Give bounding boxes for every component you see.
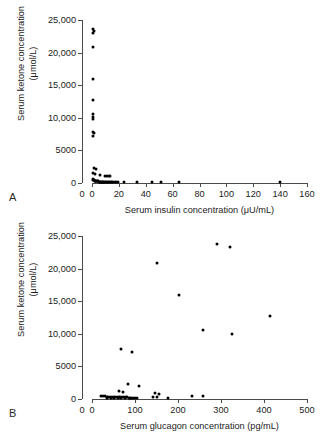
panel-b: B Serum ketone concentration (μmol/L) 0 … (0, 216, 334, 434)
data-point (153, 392, 156, 395)
panel-a-origin-label: 0 (79, 189, 84, 199)
data-point (92, 118, 95, 121)
panel-b-y-axis-line (82, 236, 83, 399)
panel-b-y-axis-title: Serum ketone concentration (μmol/L) (16, 204, 39, 356)
panel_a-x-tick (92, 183, 93, 187)
panel_a-y-tick (78, 183, 82, 184)
panel_a-x-tick (200, 183, 201, 187)
data-point (127, 383, 130, 386)
data-point (160, 181, 163, 184)
data-point (177, 293, 180, 296)
panel_a-x-tick (307, 183, 308, 187)
panel_b-x-tick (92, 399, 93, 403)
panel_a-x-tick-label: 140 (272, 189, 287, 199)
panel_a-y-tick-label: 5000 (56, 145, 76, 155)
data-point (138, 384, 141, 387)
panel-b-y-axis-title-line2: (μmol/L) (27, 204, 39, 356)
data-point (269, 315, 272, 318)
data-point (92, 135, 95, 138)
panel_b-x-tick-label: 400 (256, 405, 271, 415)
panel_a-x-tick-label: 20 (114, 189, 124, 199)
panel_b-y-tick (78, 301, 82, 302)
panel-b-plot-area: 0 Serum glucagon concentration (pg/mL) 2… (82, 236, 307, 380)
data-point (190, 394, 193, 397)
figure-container: A Serum ketone concentration (μmol/L) 0 … (0, 0, 334, 435)
data-point (229, 246, 232, 249)
panel_b-x-tick (221, 399, 222, 403)
data-point (135, 397, 138, 400)
panel_b-x-tick-label: 0 (89, 405, 94, 415)
data-point (131, 351, 134, 354)
panel_a-x-tick (226, 183, 227, 187)
data-point (230, 333, 233, 336)
data-point (136, 181, 139, 184)
panel_b-x-tick (135, 399, 136, 403)
panel_b-x-tick-label: 100 (127, 405, 142, 415)
panel-a: A Serum ketone concentration (μmol/L) 0 … (0, 0, 334, 218)
panel-a-plot-area: 0 Serum insulin concentration (μU/mL) 25… (82, 20, 307, 164)
panel_a-x-tick-label: 0 (89, 189, 94, 199)
panel-a-letter: A (9, 191, 17, 203)
panel_a-y-tick-label: 10,000 (48, 113, 76, 123)
panel_a-y-tick-label: 15,000 (48, 80, 76, 90)
panel_b-x-tick-label: 500 (299, 405, 314, 415)
panel_b-y-tick (78, 399, 82, 400)
panel_b-x-tick (307, 399, 308, 403)
panel-b-x-axis-title: Serum glucagon concentration (pg/mL) (92, 421, 307, 431)
data-point (201, 395, 204, 398)
data-point (152, 396, 155, 399)
panel_a-y-tick (78, 20, 82, 21)
data-point (279, 181, 282, 184)
data-point (201, 328, 204, 331)
panel-a-y-axis-title-line1: Serum ketone concentration (16, 6, 26, 121)
data-point (92, 45, 95, 48)
data-point (123, 397, 126, 400)
panel_b-y-tick-label: 5000 (56, 361, 76, 371)
data-point (99, 173, 102, 176)
data-point (156, 261, 159, 264)
panel_b-y-tick-label: 25,000 (48, 231, 76, 241)
panel_a-x-tick (173, 183, 174, 187)
data-point (109, 175, 112, 178)
data-point (121, 390, 124, 393)
panel_a-x-tick (119, 183, 120, 187)
data-point (120, 347, 123, 350)
panel_b-y-tick (78, 366, 82, 367)
panel_a-x-tick-label: 60 (168, 189, 178, 199)
panel_a-y-tick (78, 118, 82, 119)
data-point (150, 181, 153, 184)
panel_b-x-tick-label: 300 (213, 405, 228, 415)
panel_b-y-tick-label: 0 (71, 394, 76, 404)
panel-a-y-axis-title: Serum ketone concentration (μmol/L) (16, 0, 39, 140)
panel-a-x-axis-title: Serum insulin concentration (μU/mL) (92, 205, 307, 215)
panel_a-x-tick-label: 160 (299, 189, 314, 199)
data-point (158, 392, 161, 395)
panel_a-x-tick-label: 120 (246, 189, 261, 199)
data-point (95, 167, 98, 170)
panel_a-y-tick-label: 25,000 (48, 15, 76, 25)
data-point (128, 397, 131, 400)
panel_a-x-tick (253, 183, 254, 187)
data-point (177, 181, 180, 184)
panel-b-letter: B (9, 407, 17, 419)
panel_b-y-tick (78, 334, 82, 335)
panel_a-y-tick-label: 20,000 (48, 48, 76, 58)
data-point (215, 243, 218, 246)
panel_b-x-tick-label: 200 (170, 405, 185, 415)
data-point (122, 181, 125, 184)
data-point (93, 172, 96, 175)
panel_b-x-tick (264, 399, 265, 403)
panel_a-y-tick (78, 53, 82, 54)
panel_a-x-tick-label: 40 (141, 189, 151, 199)
panel_b-y-tick-label: 10,000 (48, 329, 76, 339)
panel_b-y-tick-label: 15,000 (48, 296, 76, 306)
panel_a-x-tick-label: 100 (219, 189, 234, 199)
panel_a-x-tick (280, 183, 281, 187)
panel_b-y-tick-label: 20,000 (48, 264, 76, 274)
panel_a-x-tick-label: 80 (194, 189, 204, 199)
data-point (118, 390, 121, 393)
panel_b-y-tick (78, 236, 82, 237)
data-point (92, 32, 95, 35)
panel_a-x-tick (146, 183, 147, 187)
panel-b-y-axis-title-line1: Serum ketone concentration (16, 222, 26, 337)
